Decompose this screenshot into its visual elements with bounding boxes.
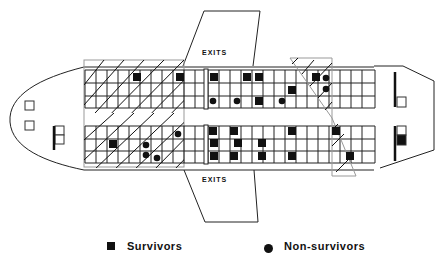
rear-galley-items [395,72,406,161]
survivor-marker [255,73,263,81]
non-survivor-marker [234,98,241,105]
non-survivor-marker [154,155,161,162]
survivor-marker [258,139,266,147]
survivor-marker [210,139,218,147]
survivor-marker [255,97,263,105]
survivor-marker [346,152,354,160]
non-survivor-marker [323,86,330,93]
aircraft-diagram [0,0,446,263]
exits-label-top: EXITS [202,49,227,56]
survivor-marker [210,73,218,81]
filled-circle-icon [264,244,273,253]
fuselage-outline [10,66,434,170]
survivor-marker [209,127,217,135]
non-survivor-marker [143,152,150,159]
non-survivor-marker [143,142,150,149]
survivor-marker [230,152,238,160]
exits-label-bottom: EXITS [202,176,227,183]
hatch-aft [292,58,350,172]
non-survivor-marker [279,98,286,105]
hatch-forward [84,60,224,135]
hatch-forward-lower [84,113,210,170]
non-survivor-marker [210,98,217,105]
survivor-marker [133,73,141,81]
survivor-marker [234,139,242,147]
survivor-marker [210,152,218,160]
legend-non-survivors: Non-survivors [264,238,365,253]
cockpit-items [25,101,64,144]
survivor-marker [288,86,296,94]
filled-square-icon [107,242,115,250]
survivor-marker [288,127,296,135]
legend-survivors: Survivors [107,240,182,252]
non-survivor-marker [175,131,182,138]
survivor-marker [243,73,251,81]
survivor-marker [288,152,296,160]
survivor-marker [109,140,117,148]
survivor-marker [258,152,266,160]
survivor-marker [230,127,238,135]
survivor-marker [176,73,184,81]
survivor-marker [312,73,320,81]
legend-survivors-label: Survivors [127,240,182,252]
legend-non-survivors-label: Non-survivors [284,240,365,252]
non-survivor-marker [323,75,330,82]
passenger-markers [109,73,354,161]
survivor-marker [332,127,340,135]
wing-top [183,11,260,66]
